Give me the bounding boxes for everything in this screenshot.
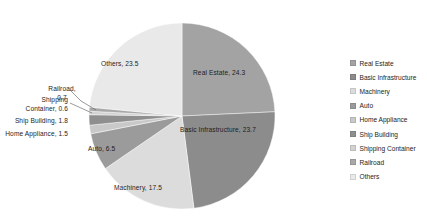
chart-legend: Real EstateBasic InfrastructureMachinery…: [350, 56, 416, 184]
pie-graphic: [88, 22, 276, 210]
legend-item-label: Others: [360, 173, 380, 180]
pie-slice-others[interactable]: [89, 23, 182, 116]
legend-swatch-icon: [350, 174, 356, 180]
legend-item-others[interactable]: Others: [350, 170, 416, 184]
chart-title: [118, 0, 288, 6]
legend-item-label: Home Appliance: [360, 116, 408, 123]
legend-item-basic-infrastructure[interactable]: Basic Infrastructure: [350, 70, 416, 84]
legend-item-railroad[interactable]: Railroad: [350, 155, 416, 169]
legend-item-machinery[interactable]: Machinery: [350, 84, 416, 98]
legend-swatch-icon: [350, 117, 356, 123]
legend-item-label: Machinery: [360, 88, 390, 95]
slice-label-shipping-container-line2: Container, 0.6: [26, 105, 68, 112]
slice-label-shipping-container-line1: Shipping: [42, 96, 68, 103]
slice-label-home-appliance: Home Appliance, 1.5: [0, 130, 68, 137]
slice-label-railroad-line1: Railroad,: [48, 85, 75, 92]
legend-item-label: Auto: [360, 102, 374, 109]
slice-label-real-estate: Real Estate, 24.3: [193, 69, 245, 76]
legend-swatch-icon: [350, 88, 356, 94]
legend-swatch-icon: [350, 103, 356, 109]
slice-label-basic-infrastructure: Basic Infrastructure, 23.7: [180, 126, 256, 133]
slice-label-machinery: Machinery, 17.5: [114, 184, 162, 191]
legend-swatch-icon: [350, 159, 356, 165]
pie-chart-figure: Real Estate, 24.3 Basic Infrastructure, …: [0, 0, 427, 223]
legend-swatch-icon: [350, 145, 356, 151]
slice-label-ship-building: Ship Building, 1.8: [8, 117, 68, 124]
legend-item-real-estate[interactable]: Real Estate: [350, 56, 416, 70]
legend-item-label: Railroad: [360, 159, 385, 166]
slice-label-shipping-container: Shipping Container, 0.6: [2, 96, 68, 113]
pie-svg: [88, 22, 276, 210]
legend-item-ship-building[interactable]: Ship Building: [350, 127, 416, 141]
legend-item-label: Real Estate: [360, 60, 394, 67]
legend-item-label: Shipping Container: [360, 145, 416, 152]
legend-item-label: Basic Infrastructure: [360, 74, 417, 81]
legend-item-label: Ship Building: [360, 131, 399, 138]
legend-swatch-icon: [350, 131, 356, 137]
legend-swatch-icon: [350, 74, 356, 80]
legend-swatch-icon: [350, 60, 356, 66]
legend-item-home-appliance[interactable]: Home Appliance: [350, 113, 416, 127]
slice-label-others: Others, 23.5: [101, 60, 139, 67]
legend-item-auto[interactable]: Auto: [350, 99, 416, 113]
slice-label-auto: Auto, 6.5: [88, 145, 115, 152]
legend-item-shipping-container[interactable]: Shipping Container: [350, 141, 416, 155]
